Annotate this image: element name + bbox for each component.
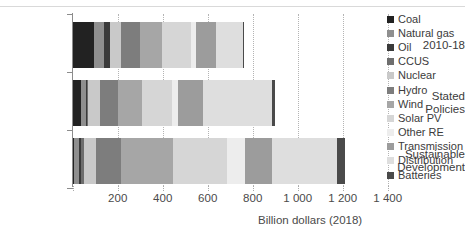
legend-swatch-icon [387, 58, 394, 65]
x-axis-tick [208, 186, 209, 191]
stacked-bar-chart: 2010-18StatedPoliciesSustainableDevelopm… [0, 0, 465, 233]
x-tick-label: 200 [108, 192, 127, 204]
legend-label: Batteries [398, 170, 441, 181]
legend-swatch-icon [387, 30, 394, 37]
legend-label: Coal [398, 14, 421, 25]
legend-swatch-icon [387, 129, 394, 136]
bar-segment [142, 80, 172, 126]
x-tick-label: 1 000 [283, 192, 312, 204]
plot-area [73, 14, 388, 186]
legend-label: Natural gas [398, 28, 454, 39]
legend-label: Distribution [398, 155, 453, 166]
x-axis-tick [388, 186, 389, 191]
legend-swatch-icon [387, 87, 394, 94]
figure-top-rule [0, 6, 465, 7]
legend-swatch-icon [387, 115, 394, 122]
legend-label: Oil [398, 42, 411, 53]
legend-label: Transmission [398, 141, 463, 152]
bar-segment [73, 80, 81, 126]
bar-segment [110, 22, 120, 68]
legend-item[interactable]: Batteries [387, 168, 463, 182]
legend-label: Hydro [398, 85, 427, 96]
x-axis-title: Billion dollars (2018) [258, 214, 362, 226]
x-axis-tick [298, 186, 299, 191]
bar-segment [337, 138, 345, 184]
x-axis-tick [163, 186, 164, 191]
legend-item[interactable]: CCUS [387, 55, 463, 69]
x-tick-label: 600 [198, 192, 217, 204]
legend-label: Nuclear [398, 70, 436, 81]
bar-segment [73, 22, 94, 68]
y-axis-tick [67, 14, 73, 15]
bar-segment [121, 138, 173, 184]
legend-label: Other RE [398, 127, 444, 138]
bar-segment [203, 80, 273, 126]
bar-segment [272, 138, 337, 184]
y-axis-tick [67, 130, 73, 131]
legend-label: Wind [398, 99, 423, 110]
x-tick-label: 1 200 [328, 192, 357, 204]
x-tick-label: 1 400 [373, 192, 402, 204]
legend-item[interactable]: Other RE [387, 126, 463, 140]
legend-item[interactable]: Natural gas [387, 26, 463, 40]
legend-item[interactable]: Distribution [387, 154, 463, 168]
legend-swatch-icon [387, 157, 394, 164]
legend-item[interactable]: Hydro [387, 83, 463, 97]
x-tick-label: 400 [153, 192, 172, 204]
bar-stack [73, 22, 388, 68]
bar-segment [245, 138, 272, 184]
legend-item[interactable]: Transmission [387, 140, 463, 154]
bar-segment [173, 138, 227, 184]
legend-item[interactable]: Nuclear [387, 69, 463, 83]
bar-segment [121, 22, 140, 68]
legend-swatch-icon [387, 172, 394, 179]
x-axis-tick [343, 186, 344, 191]
bar-segment [100, 80, 118, 126]
bar-stack [73, 80, 388, 126]
bar-segment [140, 22, 163, 68]
x-axis-tick [253, 186, 254, 191]
bar-segment [94, 22, 104, 68]
bar-segment [196, 22, 216, 68]
legend-swatch-icon [387, 72, 394, 79]
legend-item[interactable]: Wind [387, 97, 463, 111]
legend-swatch-icon [387, 16, 394, 23]
legend-label: Solar PV [398, 113, 441, 124]
legend-item[interactable]: Solar PV [387, 111, 463, 125]
legend-item[interactable]: Coal [387, 12, 463, 26]
chart-legend: CoalNatural gasOilCCUSNuclearHydroWindSo… [387, 12, 463, 182]
bar-segment [96, 138, 121, 184]
y-axis-tick [67, 188, 73, 189]
bar-segment [227, 138, 245, 184]
legend-swatch-icon [387, 44, 394, 51]
bar-segment [272, 80, 274, 126]
x-tick-label: 800 [243, 192, 262, 204]
legend-swatch-icon [387, 143, 394, 150]
bar-segment [178, 80, 203, 126]
y-axis-tick [67, 72, 73, 73]
bar-segment [216, 22, 243, 68]
legend-swatch-icon [387, 101, 394, 108]
bar-segment [118, 80, 142, 126]
legend-item[interactable]: Oil [387, 40, 463, 54]
bar-segment [88, 80, 100, 126]
bar-stack [73, 138, 388, 184]
bar-segment [162, 22, 191, 68]
legend-label: CCUS [398, 56, 429, 67]
bar-segment [84, 138, 96, 184]
x-axis-tick [118, 186, 119, 191]
